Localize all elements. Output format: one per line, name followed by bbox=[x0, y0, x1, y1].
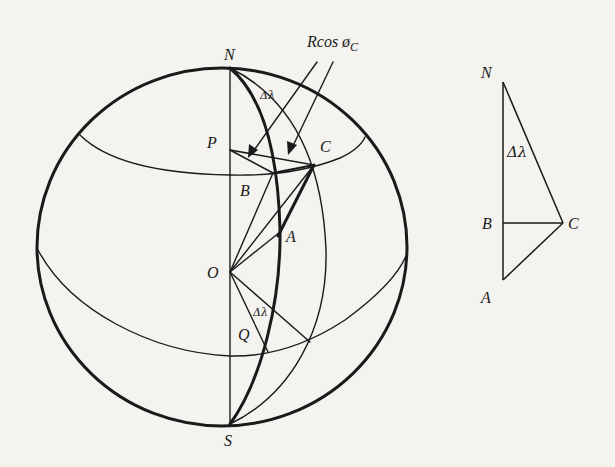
triangle-side-ca bbox=[503, 223, 563, 280]
label-p: P bbox=[206, 134, 217, 151]
label-o: O bbox=[207, 264, 219, 281]
label-q: Q bbox=[238, 326, 250, 343]
annotation-subscript: C bbox=[350, 40, 359, 54]
label-b: B bbox=[240, 182, 250, 199]
label-c: C bbox=[320, 138, 331, 155]
triangle-label-delta-lambda: Δλ bbox=[506, 143, 527, 161]
triangle-label-a: A bbox=[480, 289, 491, 306]
annotation-arrow-left bbox=[252, 62, 317, 153]
chord-c-a bbox=[278, 165, 314, 236]
triangle-label-c: C bbox=[568, 215, 579, 232]
arrowhead-right-icon bbox=[287, 141, 297, 155]
diagram-canvas: N S O P B C A Q Δλ Δλ Rcos øC N B C A Δλ bbox=[0, 0, 615, 467]
thin-meridian bbox=[230, 68, 326, 424]
annotation-rcos-phi-c: Rcos øC bbox=[306, 33, 359, 54]
line-o-a bbox=[230, 232, 280, 272]
triangle-label-n: N bbox=[480, 64, 493, 81]
lower-parallel bbox=[38, 250, 406, 356]
thick-meridian bbox=[230, 68, 280, 424]
globe-outline bbox=[37, 68, 407, 426]
label-a: A bbox=[285, 228, 296, 245]
triangle-label-b: B bbox=[482, 215, 492, 232]
line-o-b bbox=[230, 173, 273, 272]
label-delta-lambda-top: Δλ bbox=[259, 89, 275, 102]
label-n: N bbox=[223, 46, 236, 63]
label-s: S bbox=[224, 432, 232, 449]
label-delta-lambda-bottom: Δλ bbox=[252, 306, 268, 319]
figure: N S O P B C A Q Δλ Δλ Rcos øC N B C A Δλ bbox=[0, 0, 615, 467]
annotation-main: Rcos ø bbox=[306, 33, 351, 50]
annotation-arrow-right bbox=[291, 62, 333, 150]
